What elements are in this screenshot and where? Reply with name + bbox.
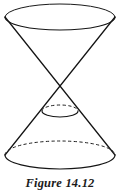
double-cone-diagram	[0, 0, 120, 176]
figure-caption: Figure 14.12	[0, 177, 120, 190]
figure-container: Figure 14.12	[0, 0, 120, 191]
upper-cross-section-ellipse-back-arc	[42, 105, 78, 111]
bottom-rim-ellipse-front-arc	[5, 155, 115, 169]
top-rim-ellipse-back-arc	[5, 4, 115, 17]
top-rim-ellipse-front-arc	[5, 17, 115, 30]
bottom-rim-ellipse-back-arc	[5, 141, 115, 155]
upper-cross-section-ellipse-front-arc	[42, 111, 78, 117]
